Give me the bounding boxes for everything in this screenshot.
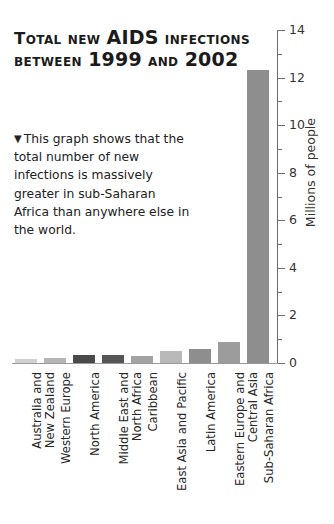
y-tick-minor	[278, 339, 282, 340]
bar	[44, 358, 66, 363]
y-tick-minor	[278, 54, 282, 55]
category-label-line: East Asia and Pacific	[175, 372, 189, 491]
y-axis-title: Millions of people	[303, 118, 318, 227]
category-label: Caribbean	[147, 372, 160, 432]
category-label-line: New Zealand	[44, 372, 57, 449]
bar	[102, 355, 124, 363]
y-tick-major	[278, 78, 285, 79]
category-label-line: North Africa	[131, 372, 144, 465]
category-label: Eastern Europe andCentral Asia	[234, 372, 260, 486]
bar	[218, 342, 240, 363]
y-tick-label: 6	[289, 214, 297, 227]
category-label-line: North America	[88, 372, 102, 456]
bar	[247, 70, 269, 363]
y-tick-label: 14	[289, 24, 305, 37]
bar	[73, 355, 95, 363]
y-tick-major	[278, 125, 285, 126]
y-tick-minor	[278, 101, 282, 102]
x-axis-baseline	[12, 363, 278, 364]
bar	[160, 351, 182, 363]
category-label-line: Middle East and	[117, 372, 131, 465]
bar	[189, 349, 211, 363]
category-label: East Asia and Pacific	[176, 372, 189, 491]
category-label-line: Eastern Europe and	[233, 372, 247, 486]
y-tick-minor	[278, 244, 282, 245]
y-tick-label: 0	[289, 357, 297, 370]
y-tick-label: 2	[289, 309, 297, 322]
bar-chart: 02468101214 Millions of people Australia…	[0, 0, 334, 524]
bar	[131, 356, 153, 363]
category-label: Latin America	[205, 372, 218, 452]
y-tick-major	[278, 315, 285, 316]
category-label: North America	[89, 372, 102, 456]
y-tick-major	[278, 268, 285, 269]
y-tick-minor	[278, 149, 282, 150]
bar	[15, 359, 37, 363]
y-tick-minor	[278, 197, 282, 198]
category-label-line: Caribbean	[146, 372, 160, 432]
category-label-line: Western Europe	[59, 372, 73, 464]
y-tick-major	[278, 363, 285, 364]
category-label: Sub-Saharan Africa	[263, 372, 276, 483]
category-label: Australia andNew Zealand	[31, 372, 57, 449]
category-label: Western Europe	[60, 372, 73, 464]
category-label-line: Sub-Saharan Africa	[262, 372, 276, 483]
category-label-line: Latin America	[204, 372, 218, 452]
y-tick-minor	[278, 292, 282, 293]
category-label-line: Australia and	[30, 372, 44, 449]
y-tick-major	[278, 30, 285, 31]
y-tick-major	[278, 173, 285, 174]
y-tick-major	[278, 220, 285, 221]
y-tick-label: 8	[289, 166, 297, 179]
y-tick-label: 4	[289, 262, 297, 275]
category-label: Middle East andNorth Africa	[118, 372, 144, 465]
y-tick-label: 12	[289, 71, 305, 84]
category-label-line: Central Asia	[247, 372, 260, 486]
